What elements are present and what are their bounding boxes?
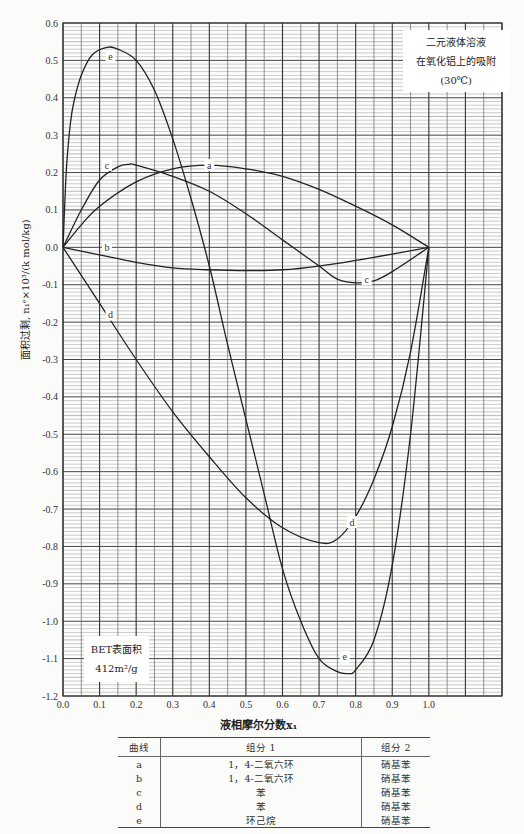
cell-curve: b xyxy=(118,771,161,785)
curve-label-a: a xyxy=(207,160,212,171)
legend-table: 曲线 组分 1 组分 2 a 1，4-二氧六环 硝基苯 b 1，4-二氧六环 硝… xyxy=(118,737,430,828)
curve-label-c: c xyxy=(364,274,369,285)
x-tick-label: 0.7 xyxy=(313,699,326,710)
cell-component-2: 硝基苯 xyxy=(362,813,431,828)
title-line-1: 二元液体溶液 xyxy=(403,33,509,52)
y-tick-label: 0.4 xyxy=(46,92,59,103)
cell-curve: d xyxy=(118,799,161,813)
curve-label-c: c xyxy=(105,160,110,171)
grid xyxy=(63,23,502,696)
y-tick-label: 0.6 xyxy=(46,18,59,29)
y-tick-label: 0.5 xyxy=(46,55,59,66)
curve-label-d: d xyxy=(350,517,355,528)
y-tick-label: -0.4 xyxy=(42,391,58,402)
y-axis-label: 面积过剩, n₁ᵉ×10³/(k mol/kg) xyxy=(17,219,32,360)
x-tick-label: 0.2 xyxy=(130,699,143,710)
title-line-3: (30℃) xyxy=(403,71,509,90)
cell-component-1: 1，4-二氧六环 xyxy=(161,771,362,785)
cell-component-1: 苯 xyxy=(161,799,362,813)
y-tick-label: -0.9 xyxy=(42,578,58,589)
y-tick-label: 0.3 xyxy=(46,130,59,141)
curve-label-e: e xyxy=(108,51,113,62)
cell-component-2: 硝基苯 xyxy=(362,757,431,772)
x-tick-label: 0.4 xyxy=(203,699,216,710)
y-tick-label: -0.1 xyxy=(42,279,58,290)
curve-label-b: b xyxy=(104,242,109,253)
title-line-2: 在氧化铝上的吸附 xyxy=(403,52,509,71)
x-tick-label: 0.6 xyxy=(276,699,289,710)
chart-title-box: 二元液体溶液 在氧化铝上的吸附 (30℃) xyxy=(403,30,509,92)
cell-curve: c xyxy=(118,785,161,799)
x-tick-label: 1.0 xyxy=(423,699,436,710)
y-tick-label: 0.2 xyxy=(46,167,59,178)
header-curve: 曲线 xyxy=(118,738,161,757)
table-row: d 苯 硝基苯 xyxy=(118,799,430,813)
header-component-2: 组分 2 xyxy=(362,738,431,757)
y-tick-label: -1.2 xyxy=(42,691,58,702)
y-axis-ticks: 0.60.50.40.30.20.10.0-0.1-0.2-0.3-0.4-0.… xyxy=(42,18,58,702)
x-tick-label: 0.8 xyxy=(349,699,362,710)
header-component-1: 组分 1 xyxy=(161,738,362,757)
table-row: b 1，4-二氧六环 硝基苯 xyxy=(118,771,430,785)
x-axis-ticks: 0.00.10.20.30.40.50.60.70.80.91.0 xyxy=(57,699,435,710)
y-tick-label: -0.8 xyxy=(42,541,58,552)
x-tick-label: 0.9 xyxy=(386,699,399,710)
table-row: a 1，4-二氧六环 硝基苯 xyxy=(118,757,430,772)
legend-table-header: 曲线 组分 1 组分 2 xyxy=(118,738,430,757)
x-tick-label: 0.5 xyxy=(240,699,253,710)
cell-component-1: 环己烷 xyxy=(161,813,362,828)
y-tick-label: -1.0 xyxy=(42,616,58,627)
bet-annotation-box: BET表面积 412m²/g xyxy=(84,636,149,682)
cell-component-2: 硝基苯 xyxy=(362,771,431,785)
cell-curve: a xyxy=(118,757,161,772)
x-tick-label: 0.0 xyxy=(57,699,70,710)
bet-label: BET表面积 xyxy=(84,640,149,659)
x-tick-label: 0.1 xyxy=(93,699,106,710)
y-tick-label: 0.0 xyxy=(46,242,59,253)
table-row: c 苯 硝基苯 xyxy=(118,785,430,799)
adsorption-chart: 0.00.10.20.30.40.50.60.70.80.91.0 0.60.5… xyxy=(0,0,524,712)
x-tick-label: 0.3 xyxy=(167,699,180,710)
cell-curve: e xyxy=(118,813,161,828)
cell-component-2: 硝基苯 xyxy=(362,799,431,813)
y-tick-label: -0.7 xyxy=(42,504,58,515)
cell-component-1: 苯 xyxy=(161,785,362,799)
y-tick-label: -0.5 xyxy=(42,429,58,440)
bet-value: 412m²/g xyxy=(84,659,149,678)
y-tick-label: 0.1 xyxy=(46,204,59,215)
curve-label-d: d xyxy=(108,309,113,320)
cell-component-1: 1，4-二氧六环 xyxy=(161,757,362,772)
y-tick-label: -1.1 xyxy=(42,653,58,664)
y-tick-label: -0.2 xyxy=(42,317,58,328)
x-axis-label: 液相摩尔分数x₁ xyxy=(220,716,297,732)
curve-label-e: e xyxy=(342,651,347,662)
y-tick-label: -0.6 xyxy=(42,466,58,477)
y-tick-label: -0.3 xyxy=(42,354,58,365)
cell-component-2: 硝基苯 xyxy=(362,785,431,799)
table-row: e 环己烷 硝基苯 xyxy=(118,813,430,828)
